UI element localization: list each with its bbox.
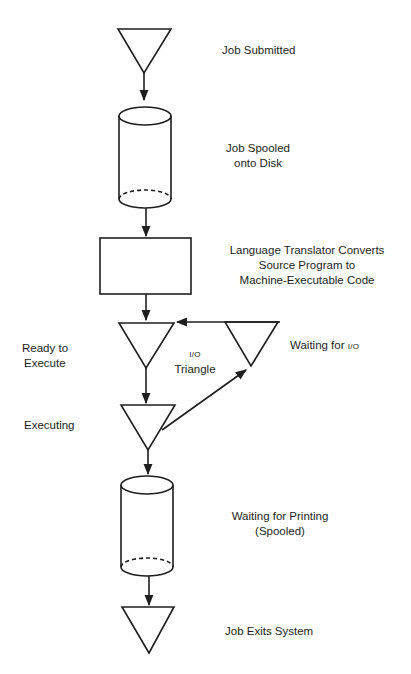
label-waiting-for-io: Waiting for I/O — [290, 338, 359, 354]
label-language-translator: Language Translator Converts Source Prog… — [222, 243, 392, 288]
label-translator-line1: Language Translator Converts — [222, 243, 392, 258]
label-waiting-for-printing: Waiting for Printing (Spooled) — [220, 509, 340, 539]
label-translator-line2: Source Program to — [222, 258, 392, 273]
job-submitted-triangle — [118, 29, 171, 73]
arrow-executing-to-io — [162, 370, 246, 430]
label-job-exits: Job Exits System — [225, 624, 313, 639]
label-io-triangle: I/O Triangle — [170, 347, 220, 377]
label-job-submitted: Job Submitted — [222, 43, 296, 58]
label-ready-line1: Ready to — [22, 341, 68, 356]
ready-to-execute-triangle — [119, 323, 174, 368]
label-ready-to-execute: Ready to Execute — [22, 341, 68, 371]
language-translator-box — [100, 238, 191, 294]
label-job-spooled-line1: Job Spooled — [218, 141, 298, 156]
waiting-for-io-triangle — [225, 322, 278, 366]
label-ready-line2: Execute — [22, 356, 68, 371]
executing-triangle — [121, 405, 175, 450]
label-translator-line3: Machine-Executable Code — [222, 273, 392, 288]
label-waiting-for-io-io: I/O — [348, 342, 360, 351]
job-spooled-cylinder — [119, 107, 171, 208]
job-exits-triangle — [122, 607, 174, 653]
label-executing: Executing — [24, 418, 75, 433]
label-waiting-for-io-prefix: Waiting for — [290, 339, 348, 351]
label-printing-line1: Waiting for Printing — [220, 509, 340, 524]
label-io-triangle-line2: Triangle — [170, 362, 220, 377]
label-io-triangle-line1: I/O — [170, 347, 220, 362]
label-printing-line2: (Spooled) — [220, 524, 340, 539]
flow-diagram — [0, 0, 411, 674]
label-job-spooled-line2: onto Disk — [218, 156, 298, 171]
waiting-for-printing-cylinder — [121, 476, 173, 576]
label-job-spooled: Job Spooled onto Disk — [218, 141, 298, 171]
